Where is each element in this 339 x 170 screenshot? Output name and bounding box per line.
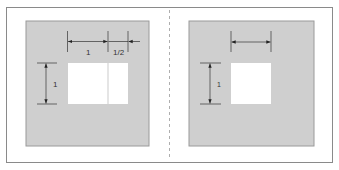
- dimension-diagram: 1 1/2 1 1: [0, 0, 339, 170]
- left-width-label-half: 1/2: [113, 48, 125, 57]
- left-height-label: 1: [53, 80, 58, 89]
- right-panel: 1: [189, 21, 314, 146]
- right-height-label: 1: [217, 81, 221, 88]
- left-panel: 1 1/2 1: [26, 21, 149, 146]
- left-opening: [68, 63, 128, 104]
- right-opening: [231, 63, 271, 104]
- left-width-label-1: 1: [86, 48, 91, 57]
